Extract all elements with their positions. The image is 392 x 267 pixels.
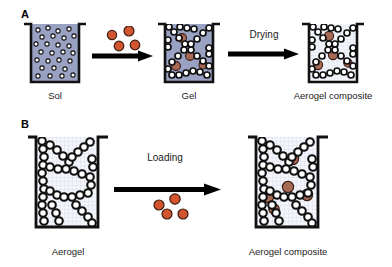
beaker-aerogel <box>28 133 108 235</box>
drying-label: Drying <box>250 29 279 40</box>
beaker-aerogel-composite-a <box>302 20 364 88</box>
free-particles-panel-a <box>104 26 146 52</box>
beaker-sol <box>24 20 86 88</box>
beaker-aerogel-composite-b <box>248 133 328 235</box>
free-particles-panel-b <box>152 192 194 220</box>
panel-letter-b: B <box>21 118 29 130</box>
panel-letter-a: A <box>21 8 29 20</box>
caption-aerogel-composite-a: Aerogel composite <box>294 90 373 101</box>
caption-sol: Sol <box>48 90 62 101</box>
caption-aerogel: Aerogel <box>52 246 85 257</box>
caption-aerogel-composite-b: Aerogel composite <box>249 246 328 257</box>
loading-label: Loading <box>147 152 183 163</box>
caption-gel: Gel <box>182 90 197 101</box>
beaker-gel <box>158 20 220 88</box>
drying-arrow <box>228 48 300 60</box>
gelation-arrow <box>92 50 154 62</box>
